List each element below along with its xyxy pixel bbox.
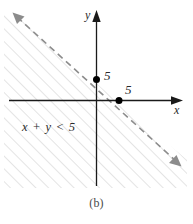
x-axis-label: x (173, 103, 180, 117)
y-axis-arrowhead (92, 10, 100, 22)
inequality-region-label: x + y < 5 (21, 120, 76, 134)
coordinate-plane-svg: 5 5 y x x + y < 5 (0, 0, 193, 192)
plot-area: 5 5 y x x + y < 5 (0, 0, 193, 192)
x-intercept-label: 5 (125, 82, 132, 97)
y-axis-label: y (84, 8, 91, 22)
figure-container: 5 5 y x x + y < 5 (b) (0, 0, 193, 224)
point-y-intercept (93, 76, 100, 83)
y-intercept-label: 5 (104, 68, 111, 83)
point-x-intercept (116, 97, 123, 104)
figure-caption: (b) (0, 196, 193, 211)
